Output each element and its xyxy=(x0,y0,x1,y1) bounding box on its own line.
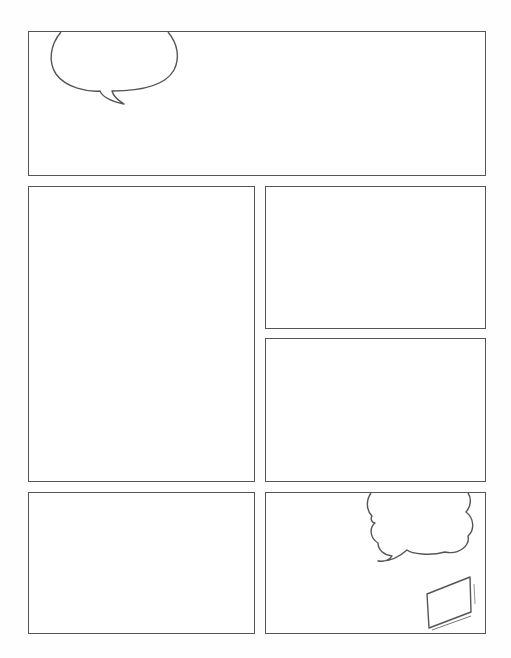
panel-3-right-upper xyxy=(265,186,486,329)
comic-page xyxy=(0,0,511,658)
panel-4-right-middle xyxy=(265,338,486,482)
panel-2-tall-left xyxy=(28,186,255,482)
panel-1-wide-top xyxy=(28,31,486,176)
panel-6-bottom-right xyxy=(265,492,486,634)
panel-5-bottom-left xyxy=(28,492,255,634)
